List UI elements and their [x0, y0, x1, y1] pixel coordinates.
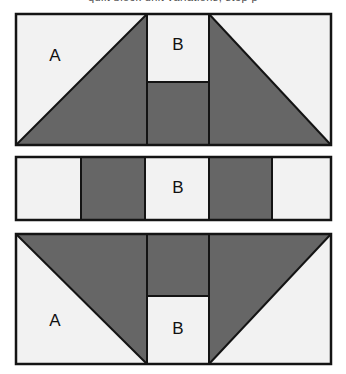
panel-bottom-center-dark-square	[147, 234, 209, 296]
panel-top-label-b: B	[172, 35, 183, 54]
panel-middle-band-1-light	[16, 157, 81, 220]
figure-root: quilt block unit variations, step p A	[0, 0, 346, 374]
panel-middle-label-b: B	[172, 178, 183, 197]
panel-top-label-a: A	[49, 46, 61, 65]
panel-middle-band-4-dark	[209, 157, 272, 220]
panel-bottom-label-b: B	[172, 319, 183, 338]
panel-middle-band-5-light	[272, 157, 331, 220]
panel-bottom-label-a: A	[49, 311, 61, 330]
panel-middle-band-2-dark	[81, 157, 145, 220]
clipped-caption-text: quilt block unit variations, step p	[0, 0, 346, 3]
panel-top-center-dark-square	[147, 82, 209, 145]
panel-middle-unit: B	[14, 155, 333, 222]
panel-bottom-unit: A B	[14, 232, 333, 366]
panel-top-unit: A B	[14, 12, 333, 147]
